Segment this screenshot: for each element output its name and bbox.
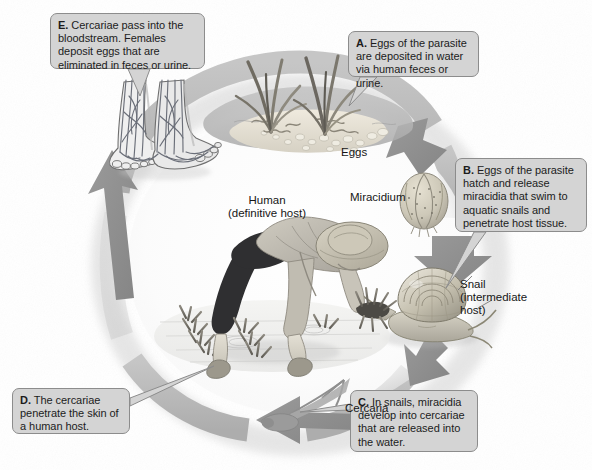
callout-b-text: Eggs of the parasite hatch and release m… [463,164,574,229]
callout-b: B. Eggs of the parasite hatch and releas… [455,158,587,232]
label-human: Human (definitive host) [212,194,322,220]
callout-a: A. Eggs of the parasite are deposited in… [348,31,479,77]
label-snail-line3: host) [460,304,527,317]
callout-d-text: The cercariae penetrate the skin of a hu… [20,394,119,432]
callout-c: C. In snails, miracidia develop into cer… [350,390,478,452]
label-human-line1: Human [212,194,322,207]
label-snail: Snail (intermediate host) [460,278,527,317]
label-snail-line2: (intermediate [460,291,527,304]
callout-e: E. Cercariae pass into the bloodstream. … [50,13,205,69]
callout-e-text: Cercariae pass into the bloodstream. Fem… [58,19,191,71]
callout-e-letter: E. [58,19,68,31]
life-cycle-diagram: E. Cercariae pass into the bloodstream. … [0,0,592,470]
label-human-line2: (definitive host) [212,207,322,220]
label-miracidium: Miracidium [350,191,406,204]
label-cercaria: Cercaria [345,402,388,415]
label-eggs: Eggs [341,146,367,159]
callout-d: D. The cercariae penetrate the skin of a… [12,388,130,434]
straw-hat [316,222,388,270]
callout-b-letter: B. [463,164,474,176]
label-snail-line1: Snail [460,278,527,291]
callout-d-letter: D. [20,394,31,406]
callout-a-letter: A. [356,37,367,49]
